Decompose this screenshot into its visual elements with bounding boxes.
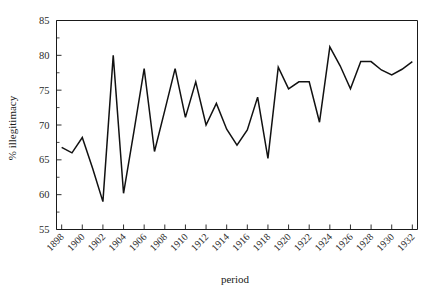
x-tick-label: 1932 (395, 231, 417, 253)
line-chart: 55606570758085 1898190019021904190619081… (0, 0, 443, 293)
x-tick-label: 1908 (147, 231, 169, 253)
x-axis-tick-labels: 1898190019021904190619081910191219141916… (44, 231, 417, 253)
y-tick-label: 65 (39, 154, 50, 165)
x-tick-label: 1924 (312, 231, 334, 253)
x-tick-label: 1918 (250, 231, 272, 253)
y-tick-label: 80 (39, 50, 50, 61)
x-tick-label: 1930 (374, 231, 396, 253)
x-tick-label: 1926 (333, 231, 355, 253)
x-tick-label: 1902 (85, 231, 107, 253)
x-tick-label: 1922 (292, 231, 314, 253)
data-line-illegitimacy (62, 47, 413, 202)
y-tick-label: 85 (39, 15, 50, 26)
data-series-group (62, 47, 413, 202)
y-axis-ticks (57, 21, 62, 230)
x-tick-label: 1916 (230, 231, 252, 253)
plot-frame (57, 21, 418, 230)
plot-box (57, 21, 418, 230)
x-tick-label: 1904 (106, 231, 128, 253)
y-axis-title: % illegitimacy (6, 95, 18, 160)
x-tick-label: 1920 (271, 231, 293, 253)
y-tick-label: 55 (39, 224, 50, 235)
x-tick-label: 1912 (189, 231, 211, 253)
y-tick-label: 60 (39, 189, 50, 200)
y-axis-tick-labels: 55606570758085 (39, 15, 50, 235)
x-tick-label: 1900 (65, 231, 87, 253)
x-axis-title: period (221, 273, 250, 285)
x-tick-label: 1928 (354, 231, 376, 253)
chart-container: 55606570758085 1898190019021904190619081… (0, 0, 443, 293)
y-tick-label: 70 (39, 120, 50, 131)
x-axis-ticks (62, 225, 413, 230)
x-tick-label: 1906 (127, 231, 149, 253)
x-tick-label: 1910 (168, 231, 190, 253)
y-tick-label: 75 (39, 85, 50, 96)
x-tick-label: 1914 (209, 231, 231, 253)
